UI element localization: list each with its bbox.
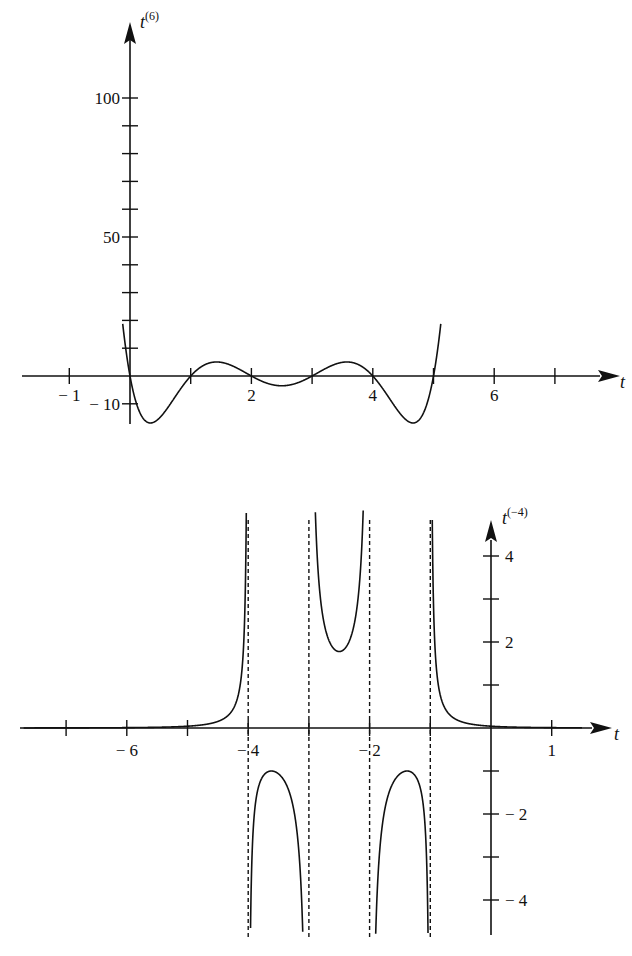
y-tick-labels: 42− 2− 4 xyxy=(505,547,528,910)
y-axis-label: t(6) xyxy=(140,9,159,32)
curve-branch xyxy=(251,771,303,932)
x-tick-label: − 6 xyxy=(116,741,138,760)
y-tick-label: 100 xyxy=(95,89,121,108)
y-axis: t(−4) xyxy=(485,505,528,935)
x-axis-arrow-icon xyxy=(590,722,612,734)
x-tick-labels: − 6− 4− 21 xyxy=(116,741,556,760)
y-axis: t(6) xyxy=(124,9,159,424)
curve-branch xyxy=(24,513,247,728)
curve-branch xyxy=(432,520,582,728)
falling-factorial-curve xyxy=(123,324,441,423)
x-axis-label: t xyxy=(620,372,626,392)
falling-factorial-plot: t t(6) − 1246 10050− 10 xyxy=(0,0,632,480)
y-axis-label: t(−4) xyxy=(502,505,528,528)
x-axis-label: t xyxy=(614,724,620,744)
y-tick-label: − 4 xyxy=(505,891,528,910)
x-tick-label: 1 xyxy=(547,741,556,760)
x-axis: t xyxy=(22,370,626,392)
negative-factorial-curve-branches xyxy=(24,510,582,933)
x-tick-label: 6 xyxy=(490,386,499,405)
x-axis-arrow-icon xyxy=(598,370,620,382)
x-tick-label: − 4 xyxy=(237,741,260,760)
y-tick-label: − 10 xyxy=(89,395,120,414)
y-tick-label: 50 xyxy=(103,228,120,247)
x-tick-label: 4 xyxy=(369,386,378,405)
x-tick-label: − 2 xyxy=(358,741,380,760)
x-axis: t xyxy=(20,722,620,744)
y-axis-arrow-icon xyxy=(485,520,497,542)
y-tick-label: 2 xyxy=(505,633,514,652)
y-ticks xyxy=(483,556,499,900)
x-tick-labels: − 1246 xyxy=(58,386,498,405)
y-tick-label: − 2 xyxy=(505,805,527,824)
curve-branch xyxy=(376,771,428,934)
x-tick-label: 2 xyxy=(247,386,256,405)
y-tick-label: 4 xyxy=(505,547,514,566)
x-ticks xyxy=(66,720,552,736)
x-tick-label: − 1 xyxy=(58,386,80,405)
vertical-asymptotes xyxy=(248,520,430,940)
y-tick-labels: 10050− 10 xyxy=(89,89,120,414)
curve-branch xyxy=(315,510,363,651)
